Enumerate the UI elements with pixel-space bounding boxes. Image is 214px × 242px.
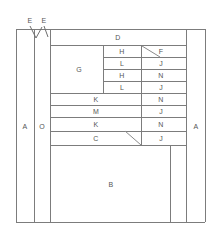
region-label-n-3: N bbox=[158, 121, 163, 128]
region-label-j-3: J bbox=[159, 108, 163, 115]
dimension-label-e-2: E bbox=[42, 17, 47, 24]
region-label-j-4: J bbox=[159, 135, 163, 142]
region-label-o: O bbox=[39, 123, 45, 130]
region-label-k-2: K bbox=[94, 121, 99, 128]
region-label-d: D bbox=[115, 34, 120, 41]
diagram-canvas: E E A O A D G H F L J H N L J K N M J K … bbox=[0, 0, 214, 242]
region-label-c: C bbox=[93, 135, 98, 142]
region-label-l-2: L bbox=[120, 84, 124, 91]
region-label-j-2: J bbox=[159, 84, 163, 91]
region-label-a-left: A bbox=[23, 123, 28, 130]
region-label-g: G bbox=[76, 66, 82, 73]
region-label-h-2: H bbox=[119, 72, 124, 79]
region-label-n-2: N bbox=[158, 96, 163, 103]
region-label-f: F bbox=[159, 48, 163, 55]
region-label-a-right: A bbox=[194, 123, 199, 130]
region-label-j-1: J bbox=[159, 60, 163, 67]
dimension-tick-marks-icon bbox=[0, 0, 214, 242]
region-label-n-1: N bbox=[158, 72, 163, 79]
region-label-k-1: K bbox=[94, 96, 99, 103]
region-label-m: M bbox=[93, 108, 99, 115]
region-label-h-1: H bbox=[119, 48, 124, 55]
region-label-b: B bbox=[109, 181, 114, 188]
region-label-l-1: L bbox=[120, 60, 124, 67]
dimension-label-e-1: E bbox=[28, 17, 33, 24]
